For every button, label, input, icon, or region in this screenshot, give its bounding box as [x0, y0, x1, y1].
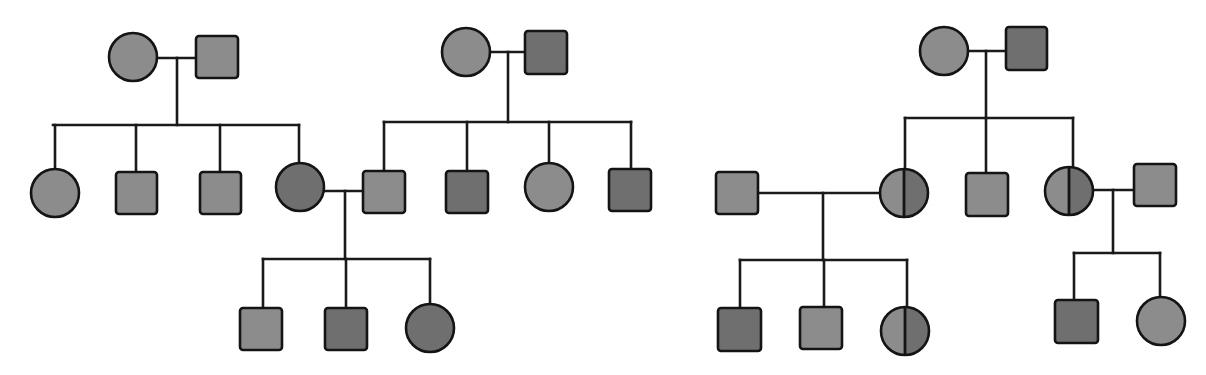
- square-symbol: [718, 308, 761, 351]
- circle-symbol: [31, 169, 79, 217]
- pedigree-individuals: [31, 27, 1185, 355]
- male-affected-L-II-8: [609, 169, 651, 211]
- female-affected-L-III-3: [406, 304, 454, 352]
- male-unaffected-L-II-3: [200, 172, 241, 214]
- circle-symbol: [406, 304, 454, 352]
- square-symbol: [200, 172, 241, 214]
- male-affected-L-I-4: [525, 31, 567, 74]
- female-unaffected-L-II-1: [31, 169, 79, 217]
- square-symbol: [363, 171, 405, 213]
- circle-symbol: [1137, 297, 1185, 345]
- male-affected-R-I-2: [1006, 27, 1047, 70]
- male-affected-L-II-6: [446, 171, 488, 213]
- carrier-right-half: [905, 307, 929, 355]
- female-unaffected-R-III-5: [1137, 297, 1185, 345]
- carrier-left-half: [880, 169, 904, 217]
- carrier-left-half: [881, 307, 905, 355]
- carrier-right-half: [904, 169, 928, 217]
- female-carrier-R-II-2: [880, 169, 928, 217]
- female-unaffected-R-I-1: [920, 27, 968, 75]
- male-unaffected-R-III-2: [800, 307, 842, 349]
- square-symbol: [446, 171, 488, 213]
- male-affected-R-III-4: [1055, 300, 1098, 343]
- female-unaffected-L-I-3: [442, 28, 490, 76]
- female-carrier-R-III-3: [881, 307, 929, 355]
- male-unaffected-R-II-1: [716, 172, 758, 214]
- square-symbol: [116, 172, 157, 214]
- square-symbol: [800, 307, 842, 349]
- square-symbol: [1134, 164, 1176, 206]
- male-affected-L-III-2: [325, 308, 367, 350]
- square-symbol: [966, 173, 1008, 216]
- square-symbol: [1055, 300, 1098, 343]
- square-symbol: [1006, 27, 1047, 70]
- male-unaffected-R-II-5: [1134, 164, 1176, 206]
- circle-symbol: [920, 27, 968, 75]
- male-unaffected-R-II-3: [966, 173, 1008, 216]
- pedigree-diagram: [0, 0, 1206, 375]
- square-symbol: [325, 308, 367, 350]
- female-affected-L-II-4: [276, 163, 324, 211]
- male-affected-R-III-1: [718, 308, 761, 351]
- circle-symbol: [109, 33, 157, 81]
- female-unaffected-L-I-1: [109, 33, 157, 81]
- male-unaffected-L-II-2: [116, 172, 157, 214]
- male-unaffected-L-III-1: [240, 308, 282, 350]
- circle-symbol: [442, 28, 490, 76]
- carrier-right-half: [1069, 167, 1093, 215]
- male-unaffected-L-I-2: [196, 36, 238, 78]
- right-pedigree-lines: [740, 51, 1160, 308]
- female-carrier-R-II-4: [1045, 167, 1093, 215]
- square-symbol: [716, 172, 758, 214]
- male-unaffected-L-II-5: [363, 171, 405, 213]
- carrier-left-half: [1045, 167, 1069, 215]
- circle-symbol: [525, 163, 573, 211]
- square-symbol: [525, 31, 567, 74]
- female-unaffected-L-II-7: [525, 163, 573, 211]
- circle-symbol: [276, 163, 324, 211]
- square-symbol: [240, 308, 282, 350]
- square-symbol: [196, 36, 238, 78]
- square-symbol: [609, 169, 651, 211]
